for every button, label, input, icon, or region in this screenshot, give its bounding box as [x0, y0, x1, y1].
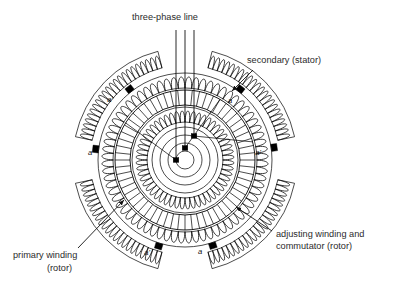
label-primary-winding-line2: (rotor)	[47, 263, 72, 273]
terminal-left	[92, 145, 99, 153]
label-stator-terminal-right: a'	[255, 148, 261, 157]
label-stator-terminal-bottom-left: a'	[144, 248, 150, 257]
label-adjusting-winding-line1: adjusting winding and	[276, 229, 364, 239]
label-three-phase-line: three-phase line	[132, 12, 198, 22]
machine-diagram: three-phase line secondary (stator) adju…	[0, 0, 405, 293]
label-stator-terminal-bottom-right: a	[198, 247, 202, 256]
label-stator-terminal-left: a	[88, 148, 92, 157]
terminal-right	[271, 143, 278, 151]
label-adjusting-winding-line2: commutator (rotor)	[276, 241, 352, 251]
label-primary-winding-line1: primary winding	[13, 250, 77, 260]
label-stator-terminal-upper-right: a	[228, 96, 232, 105]
label-stator-terminal-upper-left: a'	[107, 95, 113, 104]
label-secondary-stator: secondary (stator)	[247, 55, 321, 65]
diagram-canvas: three-phase line secondary (stator) adju…	[0, 0, 405, 293]
